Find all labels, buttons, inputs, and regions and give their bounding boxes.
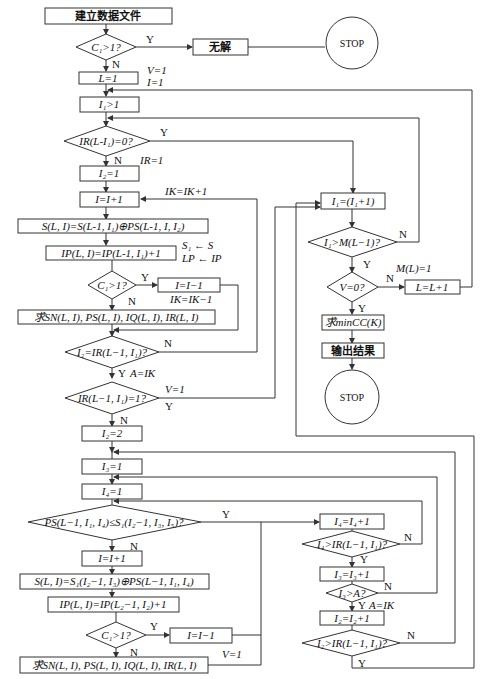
yes-label: Y [165, 400, 173, 412]
calc-IP-label: IP(L, I)=IP(L-1, I₁)+1 [60, 247, 160, 260]
flowchart: 建立数据文件 C₁>1? Y 无解 STOP N L=1 V=1 I=1 I₁>… [0, 0, 484, 679]
a-ik-label: A=IK [129, 367, 156, 379]
yes-label: Y [160, 126, 168, 138]
inc-I-2-label: I=I+1 [97, 552, 126, 564]
yes-label: Y [118, 367, 126, 379]
ik-inc-label: IK=IK+1 [164, 185, 207, 197]
yes-label: Y [360, 553, 368, 565]
no-label: N [384, 580, 392, 592]
no-label: N [120, 414, 128, 426]
output-label: 输出结果 [331, 344, 375, 358]
no-label: N [130, 646, 138, 658]
decision-ir1-label: IR(L−1, I₁)=1? [77, 392, 147, 405]
no-label: N [407, 629, 415, 641]
stop-label-2: STOP [340, 392, 365, 403]
no-label: N [399, 228, 407, 240]
decision-v0-label: V=0? [339, 281, 365, 293]
calc-SN2-label: 求SN(L, I), PS(L, I), IQ(L, I), IR(L, I) [32, 659, 197, 672]
start-label: 建立数据文件 [75, 9, 141, 23]
set-I3-label: I₃=1 [101, 460, 122, 472]
inc-I4-label: I₄=I₄+1 [333, 515, 369, 527]
init-L-label: L=1 [97, 72, 117, 84]
min-cc-label: 求minCC(K) [325, 316, 382, 329]
no-solution-label: 无解 [208, 40, 231, 54]
decision-ir-label: IR(L-I₁)=0? [78, 135, 133, 148]
decision-c1-bot-label: C₁>1? [101, 629, 131, 641]
no-label: N [112, 58, 120, 70]
no-label: N [404, 531, 412, 543]
decision-i2b-label: I₂>IR(L−1, I₁)? [316, 637, 388, 650]
ir-set-label: IR=1 [139, 154, 163, 166]
dec-I-2-label: I=I−1 [186, 629, 215, 641]
decision-i1m-label: I₁>M(L−1)? [323, 236, 380, 249]
inc-L-label: L=L+1 [415, 281, 449, 293]
no-label: N [164, 337, 172, 349]
init-V-label: V=1 [147, 64, 167, 76]
yes-label: Y [222, 508, 230, 520]
init-I-label: I=1 [146, 76, 164, 88]
no-label: N [114, 154, 122, 166]
yes-label: Y [363, 258, 371, 270]
inc-I1-label: I₁=(I₁+1) [331, 195, 375, 208]
calc-S2-label: S(L, I)=S₁(I₂−1, I₃)⊕PS(L−1, I₁, I₄) [34, 575, 193, 588]
calc-SN-label: 求SN(L, I), PS(L, I), IQ(L, I), IR(L, I) [34, 311, 199, 324]
assign-S-label: S₁ ← S [182, 239, 214, 251]
decision-c1-top-label: C₁>1? [91, 41, 121, 53]
v1-label: V=1 [165, 383, 185, 395]
decision-i3-label: I₃>A? [337, 587, 366, 599]
m-l-label: M(L)=1 [395, 262, 432, 275]
v1-bot-label: V=1 [222, 648, 242, 660]
set-I2-label: I₂=1 [98, 167, 119, 179]
assign-LP-label: LP ← IP [181, 252, 222, 264]
decision-ps-label: PS(L−1, I₁, I₄)≤S₁(I₂−1, I₃, I₅)? [43, 516, 184, 529]
decision-i4-label: I₄>IR(L−1, I₁)? [316, 538, 388, 551]
yes-label: Y [358, 657, 366, 669]
inc-I2-label: I₂=I₂+1 [333, 612, 369, 624]
no-label: N [130, 540, 138, 552]
calc-IP2-label: IP(L, I)=IP(L₂−1, I₂)+1 [59, 598, 167, 611]
set-I1-label: I₁>1 [98, 98, 119, 110]
stop-label-1: STOP [340, 38, 365, 49]
set-I2-2-label: I₂=2 [101, 427, 123, 439]
yes-label: Y [358, 599, 366, 611]
decision-c1-mid-label: C₁>1? [97, 279, 127, 291]
dec-I-label: I=I−1 [174, 279, 203, 291]
yes-label: Y [150, 620, 158, 632]
calc-S-label: S(L, I)=S(L-1, I₁)⊕PS(L-1, I, I₂) [42, 220, 185, 233]
a-ik2-label: A=IK [368, 599, 395, 611]
set-I4-label: I₄=1 [101, 485, 122, 497]
yes-label: Y [141, 271, 149, 283]
inc-I3-label: I₃=I₃+1 [333, 568, 369, 580]
no-label: N [386, 272, 394, 284]
inc-I-label: I=I+1 [94, 193, 123, 205]
decision-i2-label: I₂=IR(L−1, I₁)? [76, 346, 148, 359]
ik-dec-label: IK=IK−1 [169, 293, 212, 305]
yes-label: Y [358, 302, 366, 314]
yes-label: Y [146, 33, 154, 45]
no-label: N [128, 295, 136, 307]
